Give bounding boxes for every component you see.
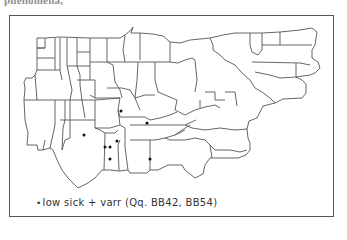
data-point (116, 140, 119, 143)
data-point (104, 146, 107, 149)
map-outline (24, 27, 320, 188)
data-point (83, 134, 86, 137)
data-point (120, 110, 123, 113)
data-point (109, 146, 112, 149)
data-point (146, 122, 149, 125)
data-point (149, 158, 152, 161)
legend-bullet-icon: • (36, 198, 42, 208)
map-legend: •low sick + varr (Qq. BB42, BB54) (36, 197, 217, 208)
legend-label: low sick + varr (Qq. BB42, BB54) (43, 197, 218, 208)
data-point (109, 158, 112, 161)
